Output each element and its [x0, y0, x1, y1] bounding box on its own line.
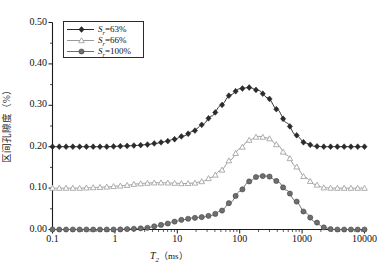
marker-diamond	[97, 144, 102, 150]
legend-item-1[interactable]: Sr=66%	[64, 35, 143, 46]
marker-diamond	[104, 144, 109, 150]
marker-circle	[226, 201, 231, 206]
marker-diamond	[186, 131, 191, 137]
marker-diamond	[63, 144, 68, 150]
marker-diamond	[131, 143, 136, 149]
marker-diamond	[77, 144, 82, 150]
marker-triangle	[226, 158, 232, 163]
marker-circle	[138, 226, 143, 231]
marker-circle	[342, 227, 347, 232]
marker-circle	[104, 227, 109, 232]
marker-circle	[50, 227, 55, 232]
series-2	[50, 173, 367, 232]
marker-triangle	[274, 142, 280, 147]
marker-diamond	[199, 122, 204, 128]
legend-marker-diamond-icon	[78, 26, 85, 33]
marker-diamond	[362, 144, 367, 150]
marker-circle	[131, 226, 136, 231]
marker-circle	[70, 227, 75, 232]
x-tick-label-4: 1000	[292, 233, 312, 244]
marker-diamond	[50, 144, 55, 150]
marker-circle	[335, 227, 340, 232]
marker-circle	[253, 174, 258, 179]
marker-diamond	[79, 27, 84, 33]
marker-circle	[206, 213, 211, 218]
legend-marker-triangle-icon	[78, 37, 85, 44]
marker-diamond	[84, 144, 89, 150]
marker-diamond	[111, 144, 116, 150]
y-tick-label-2: 0.20	[30, 140, 48, 151]
x-tick-label-2: 10	[172, 233, 182, 244]
marker-diamond	[145, 142, 150, 148]
marker-circle	[192, 215, 197, 220]
marker-circle	[355, 227, 360, 232]
y-tick-label-5: 0.50	[30, 16, 48, 27]
marker-diamond	[125, 143, 130, 149]
marker-diamond	[253, 87, 258, 93]
marker-circle	[179, 217, 184, 222]
marker-circle	[165, 221, 170, 226]
marker-circle	[145, 225, 150, 230]
marker-circle	[247, 179, 252, 184]
marker-circle	[111, 227, 116, 232]
marker-circle	[186, 216, 191, 221]
marker-circle	[118, 227, 123, 232]
marker-circle	[219, 208, 224, 213]
marker-circle	[57, 227, 62, 232]
x-tick-label-3: 100	[232, 233, 247, 244]
marker-circle	[260, 173, 265, 178]
marker-diamond	[247, 85, 252, 91]
x-tick-label-5: 10000	[352, 233, 377, 244]
marker-diamond	[314, 143, 319, 149]
marker-circle	[267, 174, 272, 179]
y-tick-label-4: 0.40	[30, 57, 48, 68]
marker-diamond	[342, 144, 347, 150]
marker-diamond	[91, 144, 96, 150]
marker-circle	[348, 227, 353, 232]
marker-diamond	[138, 142, 143, 148]
legend-swatch-2	[67, 46, 94, 57]
marker-circle	[125, 226, 130, 231]
legend-label-2: Sr=100%	[98, 46, 131, 58]
marker-circle	[233, 193, 238, 198]
marker-diamond	[172, 136, 177, 142]
marker-diamond	[328, 144, 333, 150]
x-tick-label-0: 0.1	[46, 233, 59, 244]
marker-circle	[274, 178, 279, 183]
y-tick-label-0: 0.00	[30, 223, 48, 234]
marker-circle	[97, 227, 102, 232]
marker-circle	[294, 199, 299, 204]
marker-diamond	[308, 142, 313, 148]
chart-legend: Sr=63%Sr=66%Sr=100%	[63, 21, 144, 58]
y-axis-title: 区间孔隙度（%）	[0, 0, 13, 60]
marker-circle	[321, 225, 326, 230]
legend-item-2[interactable]: Sr=100%	[64, 46, 143, 57]
marker-triangle	[206, 176, 212, 181]
marker-circle	[77, 227, 82, 232]
marker-circle	[362, 227, 367, 232]
series-0	[50, 85, 367, 150]
marker-diamond	[179, 133, 184, 139]
marker-diamond	[321, 144, 326, 150]
marker-circle	[301, 209, 306, 214]
marker-diamond	[165, 138, 170, 144]
legend-swatch-1	[67, 35, 94, 46]
y-tick-label-3: 0.30	[30, 98, 48, 109]
marker-diamond	[70, 144, 75, 150]
marker-diamond	[57, 144, 62, 150]
marker-circle	[91, 227, 96, 232]
marker-diamond	[355, 144, 360, 150]
marker-circle	[152, 224, 157, 229]
marker-circle	[213, 211, 218, 216]
marker-circle	[281, 185, 286, 190]
marker-triangle	[79, 38, 85, 43]
marker-circle	[287, 191, 292, 196]
marker-circle	[328, 226, 333, 231]
legend-marker-circle-icon	[78, 48, 85, 55]
marker-circle	[240, 187, 245, 192]
x-axis-title: T2（ms）	[150, 249, 188, 264]
marker-circle	[84, 227, 89, 232]
marker-diamond	[348, 144, 353, 150]
legend-item-0[interactable]: Sr=63%	[64, 24, 143, 35]
marker-circle	[199, 214, 204, 219]
